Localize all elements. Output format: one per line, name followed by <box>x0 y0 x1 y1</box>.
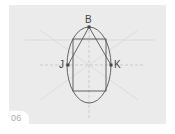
center-axes <box>40 20 145 120</box>
point-j-label: J <box>59 60 64 70</box>
point-b-label: B <box>85 15 92 25</box>
triangle-lines <box>68 27 111 65</box>
step-number: 06 <box>11 113 21 123</box>
line-b-j <box>68 27 89 65</box>
point-j-marker <box>67 64 70 67</box>
point-b-marker <box>88 26 91 29</box>
point-k-label: K <box>114 60 121 70</box>
point-k-marker <box>110 64 113 67</box>
